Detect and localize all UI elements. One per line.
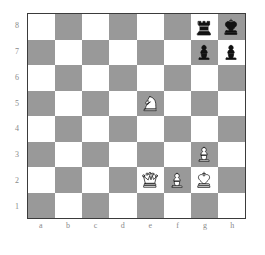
board-square-h2[interactable]	[218, 167, 245, 193]
white-knight-icon[interactable]	[137, 91, 164, 117]
file-label-c: c	[82, 221, 109, 237]
board-square-f5[interactable]	[164, 91, 191, 117]
board-square-g3[interactable]	[191, 142, 218, 168]
board-square-d1[interactable]	[109, 193, 136, 219]
board-square-c7[interactable]	[82, 40, 109, 66]
board-square-a2[interactable]	[28, 167, 55, 193]
file-label-e: e	[137, 221, 164, 237]
board-square-f1[interactable]	[164, 193, 191, 219]
board-square-d7[interactable]	[109, 40, 136, 66]
white-pawn-icon[interactable]	[164, 167, 191, 193]
rank-label-7: 7	[9, 39, 25, 65]
board-square-b5[interactable]	[55, 91, 82, 117]
board-square-c3[interactable]	[82, 142, 109, 168]
board-square-c6[interactable]	[82, 65, 109, 91]
board-square-b6[interactable]	[55, 65, 82, 91]
board-square-e8[interactable]	[137, 14, 164, 40]
black-king-icon[interactable]	[218, 14, 245, 40]
board-square-d3[interactable]	[109, 142, 136, 168]
rank-label-4: 4	[9, 116, 25, 142]
white-king-icon[interactable]	[191, 167, 218, 193]
board-square-a7[interactable]	[28, 40, 55, 66]
board-square-e7[interactable]	[137, 40, 164, 66]
board-square-g6[interactable]	[191, 65, 218, 91]
chess-board[interactable]	[27, 13, 246, 219]
board-square-g8[interactable]	[191, 14, 218, 40]
board-square-g5[interactable]	[191, 91, 218, 117]
board-square-c1[interactable]	[82, 193, 109, 219]
file-label-f: f	[164, 221, 191, 237]
board-square-f2[interactable]	[164, 167, 191, 193]
board-square-f3[interactable]	[164, 142, 191, 168]
board-square-c4[interactable]	[82, 116, 109, 142]
board-square-h8[interactable]	[218, 14, 245, 40]
board-square-d2[interactable]	[109, 167, 136, 193]
board-square-a6[interactable]	[28, 65, 55, 91]
board-square-e1[interactable]	[137, 193, 164, 219]
board-square-b3[interactable]	[55, 142, 82, 168]
board-square-b2[interactable]	[55, 167, 82, 193]
board-square-g2[interactable]	[191, 167, 218, 193]
board-square-a3[interactable]	[28, 142, 55, 168]
board-square-h7[interactable]	[218, 40, 245, 66]
board-square-e4[interactable]	[137, 116, 164, 142]
board-square-d8[interactable]	[109, 14, 136, 40]
board-square-c2[interactable]	[82, 167, 109, 193]
board-square-a8[interactable]	[28, 14, 55, 40]
board-square-b7[interactable]	[55, 40, 82, 66]
board-square-g1[interactable]	[191, 193, 218, 219]
board-square-a5[interactable]	[28, 91, 55, 117]
board-square-b8[interactable]	[55, 14, 82, 40]
board-square-h5[interactable]	[218, 91, 245, 117]
board-square-f6[interactable]	[164, 65, 191, 91]
board-square-e2[interactable]	[137, 167, 164, 193]
black-pawn-icon[interactable]	[218, 40, 245, 66]
board-square-h6[interactable]	[218, 65, 245, 91]
white-queen-icon[interactable]	[137, 167, 164, 193]
board-square-a4[interactable]	[28, 116, 55, 142]
rank-label-column: 8 7 6 5 4 3 2 1	[9, 13, 25, 219]
black-rook-icon[interactable]	[191, 14, 218, 40]
file-label-a: a	[27, 221, 54, 237]
black-pawn-icon[interactable]	[191, 40, 218, 66]
file-label-d: d	[109, 221, 136, 237]
file-label-row: a b c d e f g h	[27, 221, 246, 237]
rank-label-5: 5	[9, 90, 25, 116]
rank-label-2: 2	[9, 168, 25, 194]
board-square-a1[interactable]	[28, 193, 55, 219]
board-square-b1[interactable]	[55, 193, 82, 219]
board-square-c5[interactable]	[82, 91, 109, 117]
board-square-h1[interactable]	[218, 193, 245, 219]
file-label-b: b	[54, 221, 81, 237]
rank-label-1: 1	[9, 193, 25, 219]
board-square-f4[interactable]	[164, 116, 191, 142]
board-square-d6[interactable]	[109, 65, 136, 91]
board-square-h3[interactable]	[218, 142, 245, 168]
file-label-g: g	[191, 221, 218, 237]
chess-diagram: 8 7 6 5 4 3 2 1	[0, 0, 265, 255]
board-square-h4[interactable]	[218, 116, 245, 142]
board-square-c8[interactable]	[82, 14, 109, 40]
chess-board-grid	[28, 14, 245, 218]
rank-label-3: 3	[9, 142, 25, 168]
board-square-f8[interactable]	[164, 14, 191, 40]
file-label-h: h	[219, 221, 246, 237]
board-square-e6[interactable]	[137, 65, 164, 91]
board-square-g4[interactable]	[191, 116, 218, 142]
white-pawn-icon[interactable]	[191, 142, 218, 168]
board-square-e3[interactable]	[137, 142, 164, 168]
rank-label-8: 8	[9, 13, 25, 39]
board-square-d4[interactable]	[109, 116, 136, 142]
board-square-d5[interactable]	[109, 91, 136, 117]
board-square-f7[interactable]	[164, 40, 191, 66]
board-square-e5[interactable]	[137, 91, 164, 117]
board-square-b4[interactable]	[55, 116, 82, 142]
rank-label-6: 6	[9, 65, 25, 91]
board-square-g7[interactable]	[191, 40, 218, 66]
